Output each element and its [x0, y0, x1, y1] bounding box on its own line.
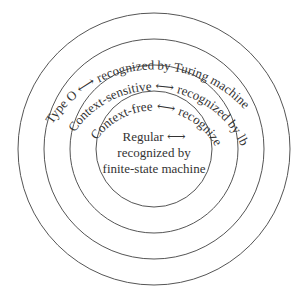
regular-label-line1: Regular ⟷: [122, 129, 185, 144]
regular-recognizer-line2: finite-state machine: [103, 161, 206, 176]
double-arrow-icon: ⟷: [155, 78, 180, 96]
regular-language-label: Regular: [122, 129, 164, 144]
double-arrow-icon: ⟷: [167, 129, 186, 144]
regular-recognizer-line1: recognized by: [117, 145, 191, 160]
chomsky-hierarchy-diagram: Type O ⟷ recognized by Turing machine Co…: [0, 0, 303, 299]
double-arrow-icon: ⟷: [156, 98, 182, 117]
